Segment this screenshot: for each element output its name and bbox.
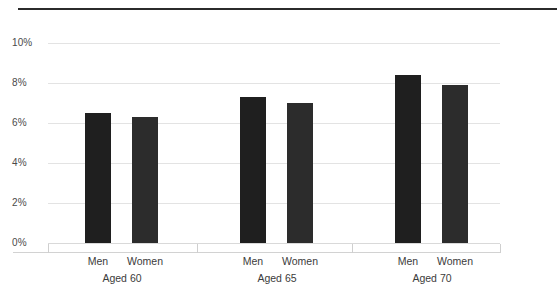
group-label-aged-70: Aged 70 (382, 273, 482, 284)
bar-label-aged-70-women: Women (428, 256, 482, 267)
gridline-2 (48, 203, 500, 204)
gridline-10 (48, 43, 500, 44)
ytick-label-4: 4% (12, 158, 44, 168)
bar-chart: 10% 8% 6% 4% 2% 0% Men Women Men Women M… (0, 0, 557, 297)
bar-label-aged-65-women: Women (273, 256, 327, 267)
bar-label-aged-60-women: Women (118, 256, 172, 267)
bar-label-aged-70-men: Men (383, 256, 433, 267)
ytick-label-0: 0% (12, 238, 44, 248)
bar-label-aged-65-men: Men (228, 256, 278, 267)
group-label-aged-60: Aged 60 (72, 273, 172, 284)
bar-aged-70-men[interactable] (395, 75, 421, 243)
gridline-4 (48, 163, 500, 164)
bar-aged-70-women[interactable] (442, 85, 468, 243)
group-separator-start (48, 244, 49, 253)
plot-area: 10% 8% 6% 4% 2% 0% Men Women Men Women M… (0, 0, 557, 297)
category-axis-line (13, 252, 500, 253)
bar-label-aged-60-men: Men (73, 256, 123, 267)
bar-aged-60-men[interactable] (85, 113, 111, 243)
ytick-label-6: 6% (12, 118, 44, 128)
gridline-0-baseline (48, 243, 500, 244)
bar-aged-60-women[interactable] (132, 117, 158, 243)
group-separator-2 (352, 244, 353, 253)
group-label-aged-65: Aged 65 (227, 273, 327, 284)
group-separator-1 (197, 244, 198, 253)
bar-aged-65-men[interactable] (240, 97, 266, 243)
group-separator-end (500, 244, 501, 253)
ytick-label-10: 10% (12, 38, 44, 48)
bar-aged-65-women[interactable] (287, 103, 313, 243)
gridline-8 (48, 83, 500, 84)
gridline-6 (48, 123, 500, 124)
ytick-label-2: 2% (12, 198, 44, 208)
ytick-label-8: 8% (12, 78, 44, 88)
